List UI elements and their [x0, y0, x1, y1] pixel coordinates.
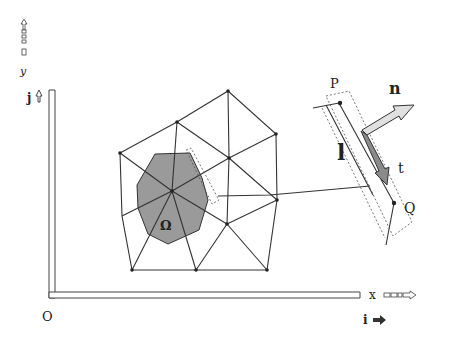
normal-label: n [389, 79, 401, 98]
y-axis-arrow-icon [21, 19, 27, 55]
leader-line [218, 186, 370, 196]
tangent-vector-arrow-icon [361, 131, 389, 185]
omega-label: Ω [160, 218, 172, 233]
j-unit-arrow-icon [36, 90, 42, 102]
x-axis-label: x [369, 288, 376, 302]
i-label: i [363, 313, 368, 327]
point-p [338, 101, 342, 105]
x-axis-arrow-icon [384, 291, 416, 299]
j-label: j [26, 91, 31, 105]
control-volume-omega [137, 153, 208, 244]
point-q-label: Q [404, 200, 415, 216]
tangent-label: t [398, 160, 404, 176]
point-p-label: P [330, 76, 339, 91]
edge-detail-inset: P n l t Q [313, 76, 415, 245]
length-label: l [337, 139, 345, 165]
point-q [392, 201, 396, 205]
i-unit-arrow-icon [373, 315, 386, 325]
coordinate-axes: y j O x i [19, 19, 416, 327]
mesh-diagram: y j O x i [0, 0, 462, 340]
y-axis-label: y [19, 65, 27, 78]
normal-vector-arrow-icon [362, 105, 414, 135]
origin-label: O [42, 309, 53, 324]
